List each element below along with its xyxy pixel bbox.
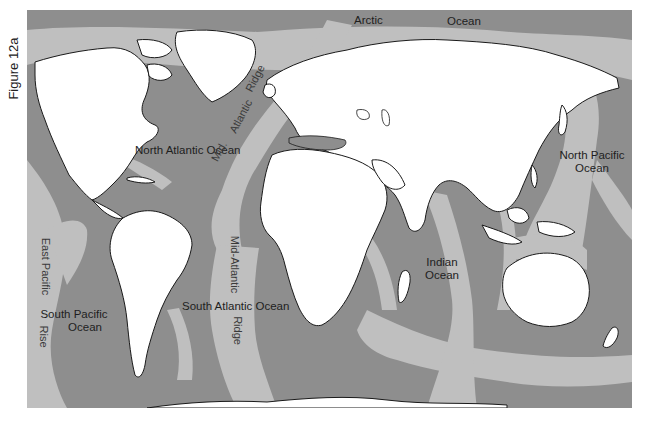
label-mid-atlantic-ridge-south-2: Ridge <box>231 316 244 345</box>
label-indian-line2: Ocean <box>422 269 462 282</box>
label-north-pacific-ocean: North Pacific Ocean <box>557 149 627 175</box>
label-mid-atlantic-ridge-south-1: Mid-Atlantic <box>228 236 241 293</box>
figure-label-text: Figure 12a <box>6 37 21 99</box>
label-south-pacific-ocean: South Pacific Ocean <box>39 308 109 334</box>
australia <box>503 253 590 326</box>
label-north-pacific-line1: North Pacific <box>557 149 627 162</box>
label-indian-ocean: Indian Ocean <box>422 256 462 282</box>
label-east-pacific-rise-1: East Pacific <box>39 238 52 295</box>
label-south-atlantic-ocean: South Atlantic Ocean <box>182 300 289 313</box>
label-north-pacific-line2: Ocean <box>557 162 627 175</box>
label-south-pacific-line1: South Pacific <box>39 308 109 321</box>
world-map: Arctic Ocean North Atlantic Ocean Mid. A… <box>27 10 632 408</box>
map-graphic <box>27 10 632 408</box>
label-indian-line1: Indian <box>422 256 462 269</box>
land-masses <box>35 30 619 408</box>
label-south-pacific-line2: Ocean <box>39 321 109 334</box>
greenland <box>175 30 255 102</box>
label-arctic: Arctic <box>354 14 383 27</box>
label-arctic-ocean: Ocean <box>447 15 481 28</box>
figure-label: Figure 12a <box>3 8 23 128</box>
